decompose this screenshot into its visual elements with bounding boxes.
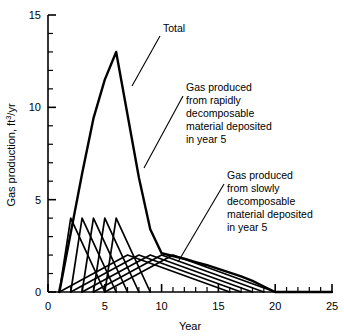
y-axis-title: Gas production, ft3/yr (4, 103, 17, 207)
annotation-leader-line (178, 184, 224, 262)
annotation-rapid: Gas producedfrom rapidlydecomposablemate… (144, 81, 272, 168)
gas-production-chart: 051015 0510152025 TotalGas producedfrom … (0, 0, 344, 336)
annotation-text: Gas producedfrom slowlydecomposablemater… (227, 169, 313, 233)
x-axis-tick-labels: 0510152025 (45, 300, 338, 312)
x-axis-title: Year (179, 320, 202, 332)
annotations: TotalGas producedfrom rapidlydecomposabl… (132, 22, 313, 262)
annotation-leader-line (132, 36, 160, 86)
annotation-total: Total (132, 22, 185, 86)
annotation-text: Gas producedfrom rapidlydecomposablemate… (186, 81, 272, 145)
x-tick-label: 25 (326, 300, 338, 312)
y-tick-label: 0 (35, 286, 41, 298)
y-axis-ticks (48, 15, 56, 292)
annotation-text: Total (163, 22, 185, 34)
annotation-leader-line (144, 96, 183, 168)
slow-decomposition-series (59, 255, 275, 292)
y-tick-label: 5 (35, 194, 41, 206)
x-tick-label: 20 (269, 300, 281, 312)
x-tick-label: 10 (155, 300, 167, 312)
y-tick-label: 15 (29, 9, 41, 21)
rapid-decomposition-series (59, 218, 150, 292)
y-tick-label: 10 (29, 101, 41, 113)
x-tick-label: 5 (102, 300, 108, 312)
y-axis-tick-labels: 051015 (29, 9, 41, 298)
chart-canvas: 051015 0510152025 TotalGas producedfrom … (0, 0, 344, 336)
x-tick-label: 15 (212, 300, 224, 312)
x-tick-label: 0 (45, 300, 51, 312)
annotation-slow: Gas producedfrom slowlydecomposablemater… (178, 169, 313, 262)
